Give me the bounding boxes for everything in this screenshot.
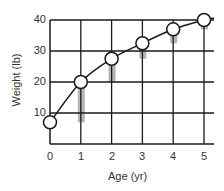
weight-age-chart: 40 30 20 10 0 1 2 3 4 5 Weight (lb) Age … <box>0 0 224 191</box>
x-tick-5: 5 <box>196 151 212 162</box>
x-tick-4: 4 <box>165 151 181 162</box>
data-point-marker <box>105 52 118 65</box>
x-tick-2: 2 <box>104 151 120 162</box>
data-point-marker <box>198 14 211 27</box>
y-tick-30: 30 <box>26 45 46 56</box>
y-tick-10: 10 <box>26 107 46 118</box>
x-tick-1: 1 <box>73 151 89 162</box>
growth-curve <box>50 18 214 122</box>
data-point-marker <box>136 37 149 50</box>
x-tick-0: 0 <box>42 151 58 162</box>
plot-area <box>0 0 224 191</box>
data-point-marker <box>74 76 87 89</box>
y-axis-title: Weight (lb) <box>10 50 22 110</box>
y-tick-20: 20 <box>26 76 46 87</box>
x-tick-3: 3 <box>134 151 150 162</box>
x-axis-title: Age (yr) <box>108 170 147 182</box>
y-tick-40: 40 <box>26 14 46 25</box>
data-point-marker <box>167 23 180 36</box>
